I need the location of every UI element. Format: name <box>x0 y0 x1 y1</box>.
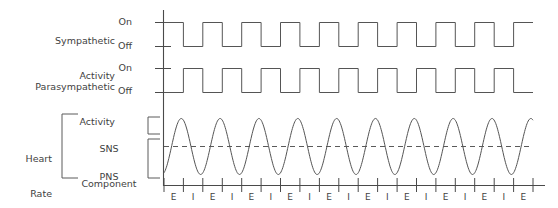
inspiration-label: I <box>225 192 239 202</box>
inspiration-label: I <box>303 192 317 202</box>
expiration-label: E <box>322 192 336 202</box>
figure-svg <box>0 0 558 208</box>
expiration-label: E <box>206 192 220 202</box>
expiration-label: E <box>439 192 453 202</box>
heart-rate-bracket <box>62 114 78 178</box>
inspiration-label: I <box>419 192 433 202</box>
sns-bracket <box>148 117 160 134</box>
inspiration-label: I <box>186 192 200 202</box>
parasympathetic-waveform <box>164 69 533 93</box>
inspiration-label: I <box>458 192 472 202</box>
inspiration-label: I <box>342 192 356 202</box>
expiration-label: E <box>361 192 375 202</box>
inspiration-label: I <box>264 192 278 202</box>
sympathetic-waveform <box>164 23 533 47</box>
inspiration-label: I <box>380 192 394 202</box>
figure-canvas: Sympathetic Activity Parasympathetic Act… <box>0 0 558 208</box>
expiration-label: E <box>167 192 181 202</box>
expiration-label: E <box>477 192 491 202</box>
expiration-label: E <box>400 192 414 202</box>
expiration-label: E <box>283 192 297 202</box>
expiration-label: E <box>516 192 530 202</box>
pns-bracket <box>148 139 160 178</box>
inspiration-label: I <box>497 192 511 202</box>
expiration-label: E <box>244 192 258 202</box>
